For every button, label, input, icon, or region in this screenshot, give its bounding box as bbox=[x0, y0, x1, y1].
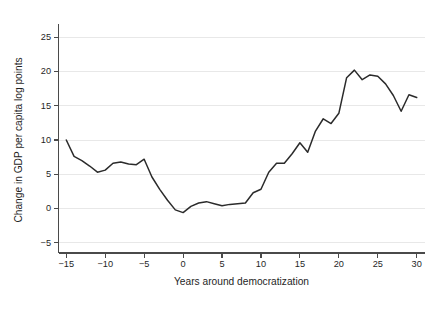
gridlines-group bbox=[59, 37, 425, 242]
x-tick-label-8: 25 bbox=[373, 259, 383, 269]
x-axis-title: Years around democratization bbox=[174, 276, 309, 287]
x-tick-label-1: −10 bbox=[97, 259, 113, 269]
x-axis-ticks-group: −15−10−5051015202530 bbox=[58, 253, 421, 269]
y-tick-label-2: 5 bbox=[46, 169, 51, 179]
y-tick-label-4: 15 bbox=[41, 101, 51, 111]
x-tick-label-2: −5 bbox=[139, 259, 149, 269]
line-chart: −50510152025 −15−10−5051015202530 Change… bbox=[0, 0, 437, 309]
x-tick-label-3: 0 bbox=[181, 259, 186, 269]
x-tick-label-5: 10 bbox=[256, 259, 266, 269]
y-tick-label-1: 0 bbox=[46, 203, 51, 213]
y-tick-label-6: 25 bbox=[41, 32, 51, 42]
y-tick-label-5: 20 bbox=[41, 66, 51, 76]
x-tick-label-9: 30 bbox=[412, 259, 422, 269]
y-axis-ticks-group: −50510152025 bbox=[41, 32, 59, 247]
chart-figure: −50510152025 −15−10−5051015202530 Change… bbox=[0, 0, 437, 309]
data-series-line bbox=[66, 70, 416, 212]
x-tick-label-6: 15 bbox=[295, 259, 305, 269]
x-tick-label-4: 5 bbox=[219, 259, 224, 269]
y-axis-title: Change in GDP per capita log points bbox=[13, 57, 24, 222]
x-tick-label-0: −15 bbox=[58, 259, 74, 269]
y-tick-label-0: −5 bbox=[41, 238, 51, 248]
y-tick-label-3: 10 bbox=[41, 135, 51, 145]
x-tick-label-7: 20 bbox=[334, 259, 344, 269]
